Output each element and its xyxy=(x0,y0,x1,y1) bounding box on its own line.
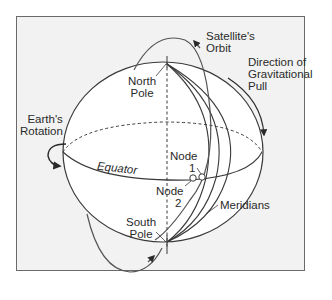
gravitational-pull-label: Direction of Gravitational Pull xyxy=(248,56,313,92)
node-1-marker xyxy=(199,174,205,180)
node-2-label: Node 2 xyxy=(156,185,184,209)
meridians-label: Meridians xyxy=(220,199,270,211)
north-pole-label: North Pole xyxy=(128,75,156,99)
satellite-orbit-label: Satellite's Orbit xyxy=(206,30,255,54)
earth-rotation-label: Earth's Rotation xyxy=(20,113,63,137)
node-2-marker xyxy=(190,175,196,181)
earth-sphere xyxy=(63,62,263,242)
earth-orbit-diagram xyxy=(0,0,332,300)
node-1-label: Node 1 xyxy=(170,150,198,174)
south-pole-label: South Pole xyxy=(126,216,156,240)
